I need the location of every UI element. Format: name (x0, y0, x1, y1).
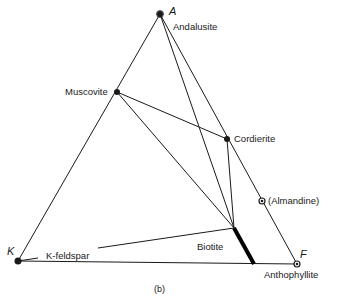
edge-a-k (18, 14, 160, 261)
vertex-a-label: A (169, 6, 176, 17)
tie-muscovite-biotite (117, 92, 234, 228)
point-andalusite (157, 11, 164, 18)
vertex-f-label: F (300, 249, 307, 260)
biotite-solid-solution (234, 228, 254, 264)
label-anthophyllite: Anthophyllite (264, 270, 318, 280)
label-almandine: (Almandine) (268, 196, 319, 206)
label-kfeldspar: K-feldspar (46, 251, 89, 261)
point-anthophyllite (294, 261, 300, 267)
figure-caption: (b) (154, 285, 165, 294)
vertex-k-label: K (7, 246, 14, 257)
point-cordierite (224, 136, 230, 142)
point-kfeldspar (15, 258, 22, 265)
point-almandine (259, 198, 265, 204)
label-muscovite: Muscovite (65, 87, 108, 97)
point-muscovite (114, 89, 120, 95)
label-cordierite: Cordierite (234, 134, 275, 144)
tie-cordierite-biotite (227, 139, 234, 228)
label-biotite: Biotite (197, 242, 223, 252)
tie-andalusite-biotite (160, 14, 234, 228)
akf-diagram: A K F Andalusite Muscovite Cordierite (A… (0, 0, 337, 306)
label-andalusite: Andalusite (173, 22, 217, 32)
tie-muscovite-cordierite (117, 92, 227, 139)
